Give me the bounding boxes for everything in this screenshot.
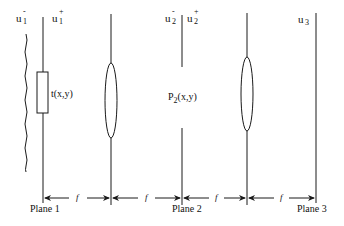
optical-system-diagram: u-1 u+1 u-2 u+2 u3 t(x,y) P2(x,y) f f f …: [0, 0, 344, 226]
label-u1-minus: u-1: [16, 13, 22, 24]
label-u2-minus: u-2: [165, 13, 171, 24]
distance-label-4: f: [280, 193, 283, 202]
label-u2-plus: u+2: [187, 13, 193, 24]
distance-label-3: f: [215, 193, 218, 202]
incident-wavefront: [25, 34, 27, 172]
pupil-label: P2(x,y): [168, 92, 197, 105]
distance-label-2: f: [145, 193, 148, 202]
transparency-label: t(x,y): [51, 89, 73, 99]
label-u1-plus: u+1: [52, 13, 58, 24]
plane-2-label: Plane 2: [172, 204, 202, 214]
transparency-element: [37, 72, 48, 113]
label-u3: u3: [298, 14, 304, 25]
lens-2: [241, 57, 253, 131]
plane-1-label: Plane 1: [30, 204, 60, 214]
lens-1: [105, 63, 117, 138]
diagram-lines: [0, 0, 344, 226]
distance-label-1: f: [76, 193, 79, 202]
plane-3-label: Plane 3: [297, 204, 327, 214]
